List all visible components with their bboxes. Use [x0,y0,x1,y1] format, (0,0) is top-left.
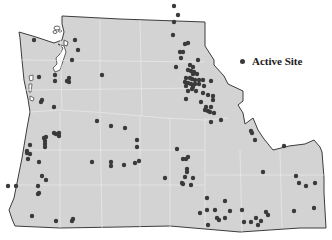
active-site-marker [73,38,77,42]
active-site-marker [292,209,296,213]
active-site-marker [90,160,94,164]
active-site-marker [181,182,185,186]
active-site-marker [266,213,270,217]
active-site-marker [201,91,205,95]
active-site-marker [6,184,10,188]
active-site-marker [240,208,244,212]
active-site-marker [44,135,48,139]
active-site-marker [190,87,194,91]
active-site-marker [184,76,188,80]
active-site-marker [181,50,185,54]
active-site-marker [211,98,215,102]
active-site-marker [171,33,175,37]
active-site-marker [198,211,202,215]
active-site-marker [312,206,316,210]
active-site-marker [135,145,139,149]
active-site-marker [304,184,308,188]
active-site-marker [195,72,199,76]
active-site-marker [205,196,209,200]
active-site-marker [70,219,74,223]
active-site-marker [186,68,190,72]
active-site-marker [313,181,317,185]
active-site-marker [213,208,217,212]
active-site-marker [53,73,57,77]
active-site-marker [211,94,215,98]
active-site-marker [219,118,223,122]
active-site-marker [174,65,178,69]
active-site-marker [123,126,127,130]
legend-label-active-site: Active Site [252,55,302,67]
active-site-marker [28,143,32,147]
active-site-marker [199,100,203,104]
active-site-marker [185,170,189,174]
active-site-marker [259,219,263,223]
active-site-legend-icon [240,59,245,64]
active-site-marker [212,111,216,115]
active-site-marker [172,4,176,8]
active-site-marker [186,155,190,159]
active-site-marker [122,163,126,167]
active-site-marker [206,93,210,97]
active-site-marker [183,175,187,179]
active-site-marker [191,176,195,180]
active-site-marker [209,79,213,83]
active-site-marker [53,79,57,83]
active-site-marker [70,58,74,62]
active-site-marker [37,191,41,195]
active-site-marker [202,84,206,88]
active-site-marker [191,72,195,76]
active-site-marker [109,160,113,164]
active-site-marker [43,145,47,149]
active-site-marker [209,120,213,124]
active-site-marker [249,220,253,224]
active-site-marker [282,144,286,148]
active-site-marker [95,119,99,123]
active-site-marker [100,73,104,77]
active-site-marker [163,176,167,180]
active-site-marker [294,174,298,178]
active-site-marker [26,157,30,161]
active-site-marker [261,170,265,174]
active-site-marker [184,97,188,101]
active-site-marker [30,214,34,218]
active-site-marker [57,134,61,138]
active-site-marker [176,13,180,17]
active-site-marker [65,79,69,83]
active-site-marker [175,147,179,151]
active-site-marker [205,208,209,212]
active-site-marker [209,105,213,109]
active-site-marker [208,110,212,114]
active-site-marker [109,164,113,168]
active-site-marker [36,184,40,188]
active-site-marker [179,56,183,60]
active-site-marker [44,178,48,182]
active-site-marker [197,82,201,86]
active-site-marker [228,209,232,213]
active-site-marker [250,131,254,135]
active-site-marker [76,48,80,52]
active-site-marker [25,151,29,155]
active-site-marker [184,84,188,88]
legend: Active Site [240,55,302,67]
active-site-marker [32,38,36,42]
active-site-marker [193,78,197,82]
active-site-marker [40,174,44,178]
active-site-marker [206,223,210,227]
active-site-marker [201,78,205,82]
active-site-marker [137,159,141,163]
active-site-marker [37,75,41,79]
active-site-marker [14,184,18,188]
active-site-marker [39,100,43,104]
active-site-marker [197,78,201,82]
active-site-marker [189,183,193,187]
active-site-marker [109,124,113,128]
map-canvas [0,0,332,240]
active-site-marker [186,41,190,45]
active-site-marker [297,181,301,185]
active-site-marker [217,218,221,222]
active-site-marker [194,89,198,93]
active-site-marker [37,160,41,164]
active-site-marker [196,58,200,62]
active-site-marker [223,216,227,220]
active-site-marker [242,220,246,224]
